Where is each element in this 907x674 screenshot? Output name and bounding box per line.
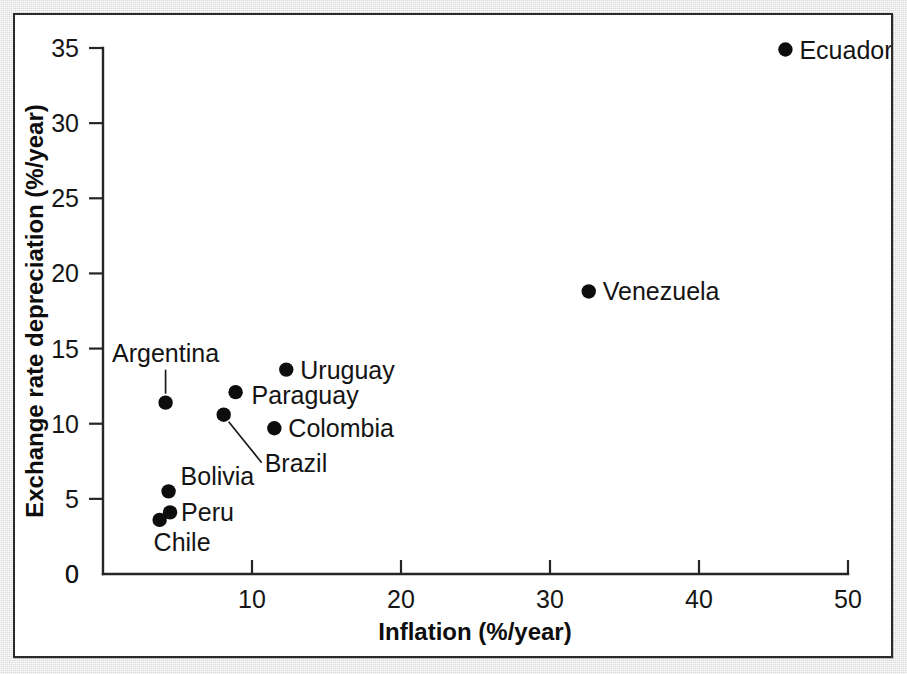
- data-point-label: Paraguay: [252, 381, 360, 409]
- label-leader-lines: [166, 370, 262, 463]
- data-point-label: Peru: [181, 498, 234, 526]
- data-point-marker: [267, 421, 281, 435]
- leader-line: [229, 422, 262, 463]
- figure-frame: 05101520253035 01020304050 EcuadorVenezu…: [13, 13, 893, 658]
- x-tick-label: 50: [834, 585, 862, 613]
- x-tick-label: 0: [65, 560, 79, 588]
- data-point-label: Bolivia: [181, 462, 255, 490]
- x-tick-label: 10: [238, 585, 266, 613]
- y-tick-label: 30: [51, 109, 79, 137]
- data-point-marker: [228, 385, 242, 399]
- data-point-labels: EcuadorVenezuelaUruguayParaguayColombiaB…: [112, 36, 891, 556]
- scatter-plot: 05101520253035 01020304050 EcuadorVenezu…: [15, 15, 891, 656]
- y-axis-ticks: 05101520253035: [51, 34, 103, 588]
- y-tick-label: 35: [51, 34, 79, 62]
- data-point-marker: [778, 42, 792, 56]
- data-point-label: Chile: [154, 528, 211, 556]
- y-tick-label: 25: [51, 184, 79, 212]
- y-axis-title: Exchange rate depreciation (%/year): [21, 104, 48, 517]
- data-point-marker: [216, 407, 230, 421]
- y-tick-label: 20: [51, 259, 79, 287]
- axes: [103, 48, 848, 574]
- data-point-label: Argentina: [112, 339, 219, 367]
- data-point-label: Ecuador: [799, 36, 891, 64]
- data-point-marker: [152, 513, 166, 527]
- y-tick-label: 10: [51, 410, 79, 438]
- data-point-label: Brazil: [265, 449, 328, 477]
- x-axis-ticks: 01020304050: [65, 560, 862, 613]
- x-axis-title: Inflation (%/year): [378, 618, 571, 645]
- data-point-label: Uruguay: [300, 356, 395, 384]
- data-point-label: Colombia: [288, 414, 394, 442]
- data-point-marker: [582, 284, 596, 298]
- data-point-marker: [158, 395, 172, 409]
- data-point-marker: [161, 484, 175, 498]
- data-point-marker: [279, 362, 293, 376]
- x-tick-label: 30: [536, 585, 564, 613]
- x-tick-label: 40: [685, 585, 713, 613]
- y-tick-label: 15: [51, 335, 79, 363]
- x-tick-label: 20: [387, 585, 415, 613]
- y-tick-label: 5: [65, 485, 79, 513]
- data-point-label: Venezuela: [603, 277, 720, 305]
